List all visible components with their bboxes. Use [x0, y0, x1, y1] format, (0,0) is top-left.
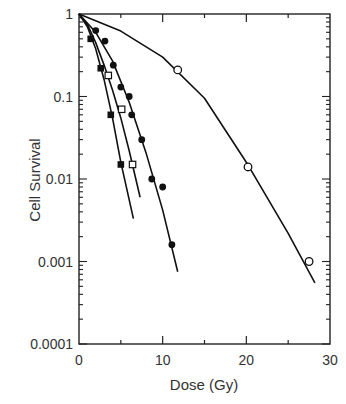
open-circle-point [305, 258, 313, 266]
x-axis-title: Dose (Gy) [170, 376, 238, 393]
y-axis-title: Cell Survival [26, 138, 43, 221]
filled-circle-point [117, 84, 124, 91]
x-tick-label: 30 [322, 352, 338, 368]
x-tick-label: 20 [239, 352, 255, 368]
axis-ticks [79, 14, 330, 344]
open-circle-point [244, 163, 252, 171]
plot-frame [79, 14, 330, 344]
fit-curves [79, 14, 315, 283]
filled-square-point [97, 65, 104, 72]
filled-square-point [87, 36, 94, 43]
filled-circles-fit-curve [79, 14, 178, 272]
filled-squares-fit-curve [79, 14, 133, 219]
open-square-point [129, 161, 135, 167]
y-tick-label: 1 [65, 6, 73, 22]
filled-square-point [118, 161, 125, 168]
open-circles-fit-curve [79, 14, 315, 283]
filled-circle-point [138, 136, 145, 143]
survival-chart: 010203010.10.010.0010.0001 Dose (Gy) Cel… [0, 0, 346, 404]
filled-circle-point [159, 184, 166, 191]
y-tick-label: 0.0001 [30, 336, 73, 352]
filled-circle-point [168, 241, 175, 248]
filled-circle-point [128, 111, 135, 118]
tick-labels: 010203010.10.010.0010.0001 [30, 6, 338, 368]
filled-circle-point [110, 62, 117, 69]
filled-square-point [107, 112, 114, 119]
data-points [87, 27, 312, 265]
x-tick-label: 10 [155, 352, 171, 368]
plot-border [79, 14, 330, 344]
filled-circle-point [102, 38, 109, 45]
filled-circle-point [126, 93, 133, 100]
x-tick-label: 0 [75, 352, 83, 368]
open-circle-point [174, 66, 182, 74]
y-tick-label: 0.01 [46, 171, 73, 187]
open-square-point [105, 72, 111, 78]
filled-circle-point [92, 27, 99, 34]
open-square-point [118, 106, 124, 112]
filled-circle-point [148, 176, 155, 183]
y-tick-label: 0.001 [38, 254, 73, 270]
y-tick-label: 0.1 [54, 89, 74, 105]
